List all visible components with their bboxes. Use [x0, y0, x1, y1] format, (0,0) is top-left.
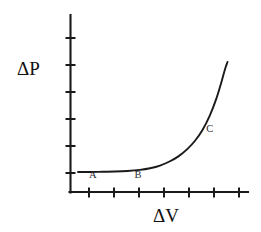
curve-label-c: C [206, 123, 213, 134]
plot-canvas: ΔP ΔV A B C [0, 0, 261, 232]
x-axis-title: ΔV [153, 205, 179, 226]
curve-label-a: A [89, 169, 97, 180]
curve-label-b: B [135, 169, 142, 180]
physics-graph-figure: ΔP ΔV A B C [0, 0, 261, 232]
y-axis-title: ΔP [17, 58, 40, 79]
data-curve [78, 62, 228, 172]
